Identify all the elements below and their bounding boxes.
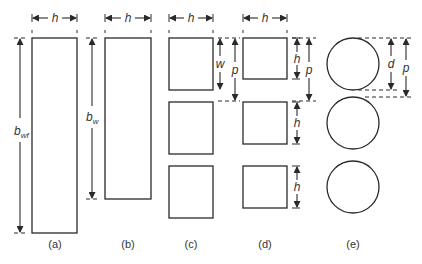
caption-d: (d) bbox=[258, 238, 271, 250]
dim-label-p: p bbox=[402, 61, 410, 75]
dim-label-d: d bbox=[388, 57, 395, 71]
panel-b: h bw (b) bbox=[86, 11, 151, 250]
circle-e-3 bbox=[327, 161, 379, 213]
square-d-3 bbox=[243, 166, 287, 208]
caption-a: (a) bbox=[48, 238, 61, 250]
dim-label-h: h bbox=[294, 52, 301, 66]
dim-label-h: h bbox=[125, 11, 132, 25]
square-c-3 bbox=[169, 166, 213, 218]
dim-label-p: p bbox=[305, 63, 313, 77]
panel-e: d p (e) bbox=[327, 38, 414, 250]
caption-e: (e) bbox=[346, 238, 359, 250]
dim-label-p: p bbox=[231, 63, 239, 77]
circle-e-2 bbox=[327, 97, 379, 149]
dim-label-h: h bbox=[294, 180, 301, 194]
dim-label-h: h bbox=[52, 11, 59, 25]
dim-label-bw: bw bbox=[86, 110, 100, 126]
square-c-2 bbox=[169, 102, 213, 154]
dim-label-w: w bbox=[216, 57, 226, 71]
dim-label-h: h bbox=[294, 116, 301, 130]
dim-label-h: h bbox=[188, 11, 195, 25]
panel-d: h h h h p (d) bbox=[243, 11, 316, 250]
circle-e-1 bbox=[327, 38, 379, 90]
square-d-1 bbox=[243, 38, 287, 79]
dim-label-h: h bbox=[262, 11, 269, 25]
square-c-1 bbox=[169, 38, 213, 90]
wall-rectangle-a bbox=[32, 38, 77, 233]
caption-b: (b) bbox=[121, 238, 134, 250]
panel-c: h w p (c) bbox=[169, 11, 240, 250]
square-d-2 bbox=[243, 102, 287, 144]
wall-rectangle-b bbox=[105, 38, 151, 199]
cross-section-diagram: h bwf (a) h bw (b) h bbox=[0, 0, 422, 264]
panel-a: h bwf (a) bbox=[14, 11, 77, 250]
caption-c: (c) bbox=[185, 238, 198, 250]
dim-label-bwf: bwf bbox=[14, 124, 29, 140]
